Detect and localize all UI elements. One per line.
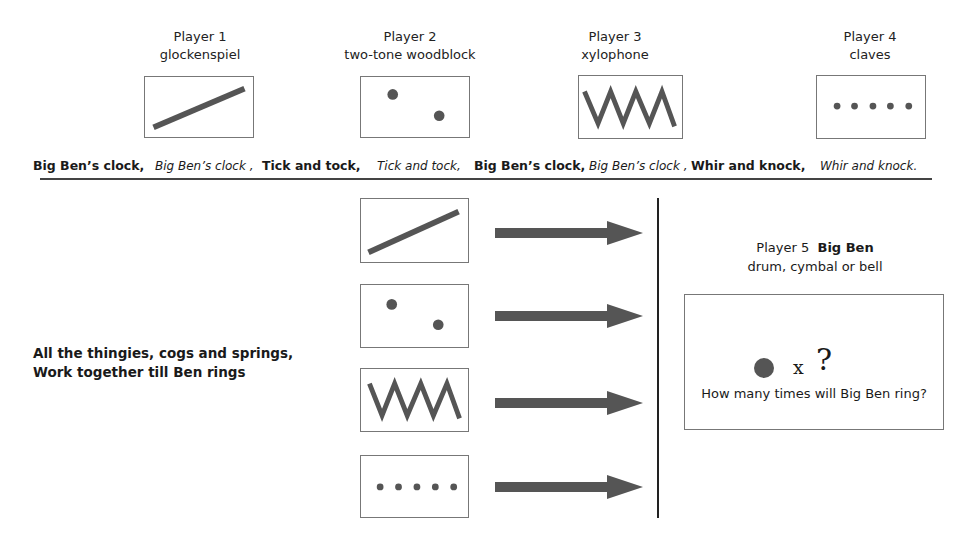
player-3-instrument: xylophone <box>560 46 670 64</box>
diagonal-line-icon <box>145 77 253 137</box>
large-dot-icon <box>754 358 774 378</box>
arrow-right-icon <box>495 391 643 415</box>
player-2-symbol-card <box>360 76 470 138</box>
zigzag-icon <box>579 76 682 138</box>
chant-line-1: All the thingies, cogs and springs, <box>33 344 293 363</box>
player-1-instrument: glockenspiel <box>140 46 260 64</box>
player-4-instrument: claves <box>810 46 930 64</box>
player-4-symbol-card <box>816 75 926 139</box>
lyric-1: Big Ben’s clock, <box>33 158 144 173</box>
stack-card-glockenspiel <box>360 198 469 263</box>
player-1-symbol-card <box>144 76 254 138</box>
player-5-label: Player 5 <box>756 240 809 255</box>
two-dots-icon <box>361 285 468 347</box>
player-5-question: How many times will Big Ben ring? <box>684 386 944 401</box>
chant-line-2: Work together till Ben rings <box>33 363 293 382</box>
player-3-label: Player 3 <box>560 28 670 46</box>
player-4-heading: Player 4 claves <box>810 28 930 64</box>
player-3-heading: Player 3 xylophone <box>560 28 670 64</box>
stack-card-xylophone <box>360 368 469 432</box>
player-5-name: Big Ben <box>817 240 873 255</box>
lyric-8: Whir and knock. <box>820 158 917 173</box>
diagonal-line-icon <box>361 199 468 262</box>
question-mark-icon: ? <box>816 344 832 376</box>
player-1-label: Player 1 <box>140 28 260 46</box>
lyric-7: Whir and knock, <box>691 158 805 173</box>
section-divider <box>40 178 932 180</box>
lyric-2: Big Ben’s clock , <box>155 158 254 173</box>
player-5-heading: Player 5 Big Ben drum, cymbal or bell <box>700 238 930 276</box>
chant-text: All the thingies, cogs and springs, Work… <box>33 344 293 382</box>
five-dots-icon <box>361 456 468 517</box>
player-2-label: Player 2 <box>330 28 490 46</box>
player-3-symbol-card <box>578 75 683 139</box>
player-5-card <box>684 294 944 430</box>
stack-card-claves <box>360 455 469 518</box>
lyric-5: Big Ben’s clock, <box>474 158 585 173</box>
arrow-right-icon <box>495 221 643 245</box>
two-dots-icon <box>361 77 469 137</box>
arrow-right-icon <box>495 475 643 499</box>
arrow-right-icon <box>495 304 643 328</box>
player-2-heading: Player 2 two-tone woodblock <box>330 28 490 64</box>
stack-card-woodblock <box>360 284 469 348</box>
player-2-instrument: two-tone woodblock <box>330 46 490 64</box>
player-5-instrument: drum, cymbal or bell <box>700 257 930 276</box>
five-dots-icon <box>817 76 925 138</box>
player-4-label: Player 4 <box>810 28 930 46</box>
times-symbol: x <box>793 356 804 378</box>
lyric-3: Tick and tock, <box>262 158 361 173</box>
zigzag-icon <box>361 369 468 431</box>
lyric-4: Tick and tock, <box>377 158 461 173</box>
vertical-divider <box>657 198 659 518</box>
player-1-heading: Player 1 glockenspiel <box>140 28 260 64</box>
lyric-6: Big Ben’s clock , <box>589 158 688 173</box>
